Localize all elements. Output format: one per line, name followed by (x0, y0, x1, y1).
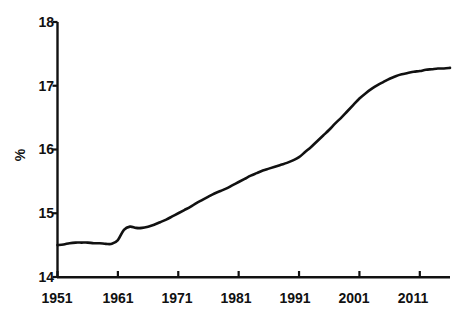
plot-area (0, 0, 463, 321)
data-line-series-0 (58, 68, 451, 245)
chart-container: % 18 17 16 15 14 1951 1961 1971 1981 199… (0, 0, 463, 321)
axis-group (53, 22, 451, 277)
